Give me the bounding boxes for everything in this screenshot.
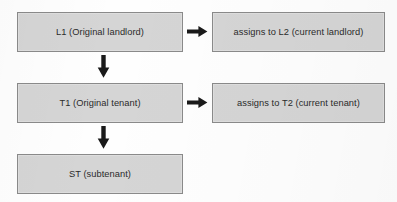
- node-t2-label: assigns to T2 (current tenant): [237, 98, 360, 109]
- node-l1-label: L1 (Original landlord): [56, 27, 144, 38]
- arrow-down-l1-to-t1: [97, 55, 110, 79]
- node-t2-current-tenant[interactable]: assigns to T2 (current tenant): [212, 83, 385, 123]
- arrow-right-t1-to-t2: [187, 96, 208, 109]
- node-l1-original-landlord[interactable]: L1 (Original landlord): [17, 12, 183, 52]
- node-t1-original-tenant[interactable]: T1 (Original tenant): [17, 83, 183, 123]
- node-l2-label: assigns to L2 (current landlord): [234, 27, 364, 38]
- node-t1-label: T1 (Original tenant): [59, 98, 140, 109]
- arrow-down-t1-to-st: [97, 126, 110, 150]
- node-st-subtenant[interactable]: ST (subtenant): [17, 154, 183, 194]
- node-st-label: ST (subtenant): [69, 169, 131, 180]
- arrow-right-l1-to-l2: [187, 25, 208, 38]
- node-l2-current-landlord[interactable]: assigns to L2 (current landlord): [212, 12, 385, 52]
- diagram-canvas: L1 (Original landlord) assigns to L2 (cu…: [0, 0, 397, 202]
